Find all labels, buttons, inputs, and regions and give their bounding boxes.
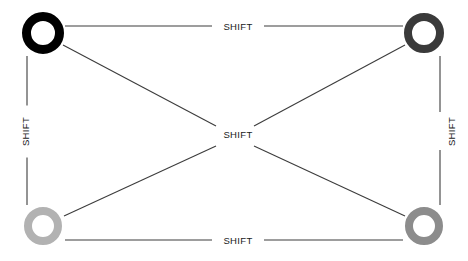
node-top-right[interactable] xyxy=(404,13,444,53)
edge-line-diagonal-tr-bl-upper xyxy=(254,45,405,126)
shift-diagram: SHIFT SHIFT SHIFT SHIFT SHIFT xyxy=(0,0,468,261)
edge-label-left: SHIFT xyxy=(19,106,32,158)
edge-label-top: SHIFT xyxy=(212,20,264,33)
edge-line-diagonal-tl-br-lower xyxy=(254,146,405,216)
edge-label-bottom: SHIFT xyxy=(212,234,264,247)
edge-line-diagonal-tl-br-upper xyxy=(63,45,216,126)
edge-line-diagonal-tr-bl-lower xyxy=(64,146,216,216)
edge-label-center: SHIFT xyxy=(212,128,264,141)
edge-label-right: SHIFT xyxy=(445,106,458,158)
node-top-left[interactable] xyxy=(22,12,64,54)
node-bottom-left[interactable] xyxy=(24,207,62,245)
node-bottom-right[interactable] xyxy=(405,207,443,245)
